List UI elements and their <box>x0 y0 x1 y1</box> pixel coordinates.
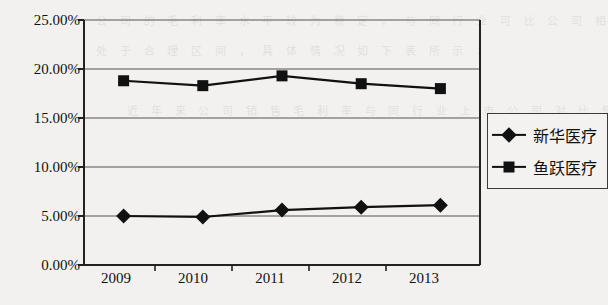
line-chart: 25.00% 20.00% 15.00% 10.00% 5.00% 0.00% … <box>0 0 608 305</box>
x-axis-label-2010: 2010 <box>178 270 208 287</box>
legend-item-yuyue-yiliao[interactable]: 鱼跃医疗 <box>492 156 607 178</box>
x-axis-label-2011: 2011 <box>255 270 284 287</box>
legend-item-xinhua-yiliao[interactable]: 新华医疗 <box>492 124 607 146</box>
x-axis-label-2009: 2009 <box>101 270 131 287</box>
x-axis-label-2012: 2012 <box>332 270 362 287</box>
legend-label-yuyue-yiliao: 鱼跃医疗 <box>533 155 597 179</box>
legend-label-xinhua-yiliao: 新华医疗 <box>533 123 597 147</box>
square-marker-icon <box>504 162 515 173</box>
x-axis-label-2013: 2013 <box>409 270 439 287</box>
diamond-marker-icon <box>501 127 517 143</box>
legend-key-diamond <box>492 126 526 144</box>
chart-legend: 新华医疗 鱼跃医疗 <box>487 113 608 189</box>
legend-key-square <box>492 158 526 176</box>
